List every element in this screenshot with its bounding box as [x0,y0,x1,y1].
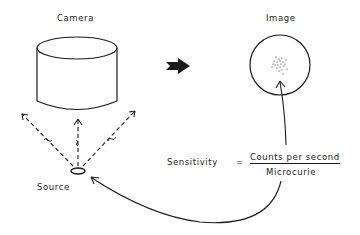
equation-to-source-arrow-icon [91,177,281,223]
image-circle-icon [250,35,310,95]
equation-equals: = [236,157,244,167]
emission-rays-icon [22,111,135,166]
source-disc-icon [71,168,85,174]
source-label: Source [37,182,70,192]
image-label: Image [266,13,296,23]
process-arrow-icon [166,58,190,74]
equation-denominator: Microcurie [266,167,316,177]
camera-label: Camera [57,13,94,23]
equation-lhs: Sensitivity [167,157,218,167]
image-dots-icon [271,56,287,74]
diagram-drawing [0,0,360,235]
diagram-canvas: Camera Image Source Sensitivity = Counts… [0,0,360,235]
equation-to-image-arrow-icon [276,81,286,145]
equation-numerator: Counts per second [250,152,340,164]
camera-cylinder-icon [37,37,117,110]
